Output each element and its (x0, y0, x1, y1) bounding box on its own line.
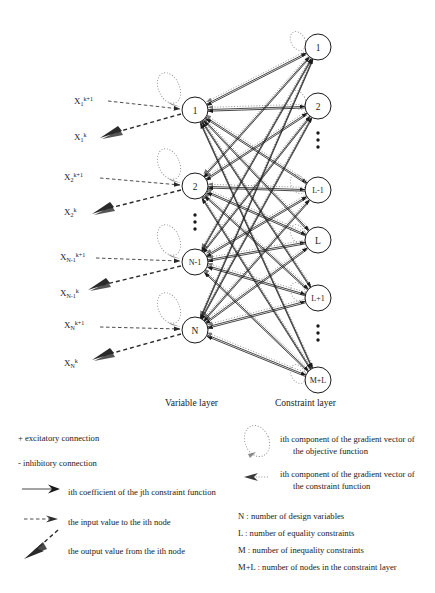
definition-l: L : number of equality constraints (238, 527, 354, 539)
legend-objective-gradient: ith component of the gradient vector of … (280, 433, 415, 458)
thick-dashed-arrow-icon (24, 530, 58, 559)
dotted-arrow-icon (244, 473, 268, 481)
definition-ml: M+L : number of nodes in the constraint … (238, 561, 397, 573)
dotted-loop-icon (240, 422, 274, 461)
diagram-canvas: 12N-1N12L-1LL+1M+L X1k+1 X1k X2k+1 X2k X… (0, 0, 435, 593)
dashed-arrow-icon (24, 516, 58, 523)
definition-m: M : number of inequality constraints (238, 544, 364, 556)
legend-constraint-gradient-line2: the constraint function (280, 480, 415, 492)
solid-arrow-icon (22, 485, 60, 494)
legend-objective-gradient-line1: ith component of the gradient vector of (280, 434, 415, 444)
legend-constraint-gradient-line1: ith component of the gradient vector of (280, 469, 415, 479)
legend-symbol-icons (0, 0, 435, 593)
legend-objective-gradient-line2: the objective function (280, 445, 415, 457)
legend-constraint-gradient: ith component of the gradient vector of … (280, 468, 415, 493)
definition-n: N : number of design variables (238, 510, 344, 522)
